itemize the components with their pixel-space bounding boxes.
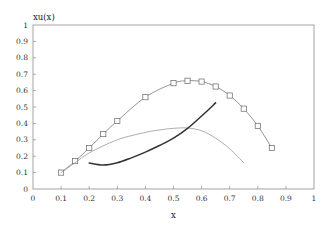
square-marker	[115, 118, 120, 123]
square-marker	[213, 84, 218, 89]
thick-curve-series	[89, 103, 215, 165]
y-tick-label: 0.2	[16, 152, 28, 161]
x-tick-label: 0.5	[168, 194, 180, 203]
plot-frame	[33, 25, 314, 189]
square-marker	[255, 123, 260, 128]
x-tick-label: 0	[31, 194, 36, 203]
square-marker	[171, 81, 176, 86]
square-marker	[185, 78, 190, 83]
line-chart: 00.10.20.30.40.50.60.70.80.91 00.10.20.3…	[0, 0, 336, 228]
x-tick-label: 0.2	[83, 194, 95, 203]
x-tick-label: 1	[312, 194, 317, 203]
y-tick-label: 0.6	[16, 86, 28, 95]
series-layer	[59, 78, 275, 175]
x-tick-label: 0.8	[252, 194, 264, 203]
y-tick-label: 0.5	[16, 103, 28, 112]
square-marker	[87, 145, 92, 150]
square-marker	[241, 106, 246, 111]
y-tick-label: 0	[23, 185, 28, 194]
y-tick-label: 0.9	[16, 37, 28, 46]
square-marker	[227, 93, 232, 98]
y-tick-label: 0.7	[16, 70, 28, 79]
square-marker	[269, 145, 274, 150]
y-tick-label: 0.3	[16, 135, 28, 144]
y-tick-label: 0.1	[16, 168, 28, 177]
x-tick-label: 0.9	[280, 194, 292, 203]
x-tick-label: 0.7	[224, 194, 236, 203]
x-axis-title: x	[171, 210, 176, 220]
square-marker	[199, 79, 204, 84]
y-tick-label: 0.4	[16, 119, 28, 128]
y-axis-title: xu(x)	[33, 12, 55, 22]
x-tick-label: 0.4	[139, 194, 151, 203]
y-tick-label: 0.8	[16, 53, 28, 62]
series-line	[89, 103, 215, 165]
x-tick-label: 0.6	[196, 194, 208, 203]
square-marker	[143, 95, 148, 100]
square-marker	[101, 131, 106, 136]
y-tick-label: 1	[23, 21, 28, 30]
x-tick-label: 0.3	[111, 194, 123, 203]
x-tick-label: 0.1	[55, 194, 67, 203]
